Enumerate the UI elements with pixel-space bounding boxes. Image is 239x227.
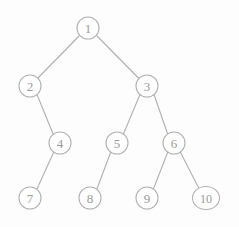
- tree-edge: [154, 95, 168, 136]
- node-label: 4: [57, 136, 64, 151]
- node-label: 10: [200, 192, 212, 206]
- tree-node[interactable]: 3: [136, 75, 158, 97]
- nodes-group: 12345678910: [19, 17, 220, 210]
- tree-node[interactable]: 4: [49, 132, 71, 154]
- tree-node[interactable]: 7: [19, 187, 41, 209]
- node-label: 1: [85, 21, 92, 36]
- tree-node[interactable]: 10: [193, 187, 220, 210]
- node-label: 2: [27, 79, 34, 94]
- tree-node[interactable]: 1: [77, 17, 99, 39]
- binary-tree-figure: 12345678910: [0, 0, 239, 227]
- node-label: 3: [144, 79, 151, 94]
- node-label: 8: [87, 191, 94, 206]
- tree-node[interactable]: 2: [19, 75, 41, 97]
- tree-edge: [123, 95, 140, 136]
- node-label: 6: [171, 136, 178, 151]
- tree-node[interactable]: 9: [136, 187, 158, 209]
- node-label: 9: [144, 191, 151, 206]
- tree-edge: [97, 36, 139, 79]
- tree-edge: [37, 152, 55, 191]
- tree-node[interactable]: 8: [79, 187, 101, 209]
- tree-edge: [180, 152, 200, 190]
- node-label: 7: [27, 191, 34, 206]
- tree-node[interactable]: 5: [106, 132, 128, 154]
- tree-edge: [153, 152, 168, 191]
- tree-edge: [37, 95, 54, 136]
- tree-node[interactable]: 6: [163, 132, 185, 154]
- tree-canvas: 12345678910: [0, 0, 239, 227]
- tree-edge: [97, 152, 112, 191]
- node-label: 5: [114, 136, 121, 151]
- edges-group: [37, 36, 200, 190]
- tree-edge: [38, 36, 80, 79]
